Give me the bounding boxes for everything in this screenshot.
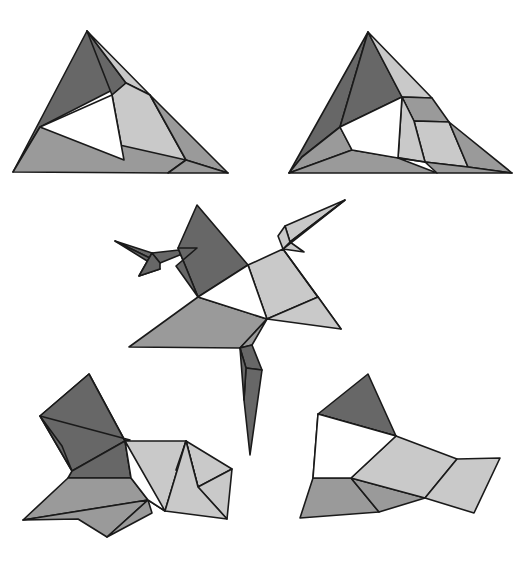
figures-svg (0, 0, 526, 564)
figure-board (0, 0, 526, 564)
